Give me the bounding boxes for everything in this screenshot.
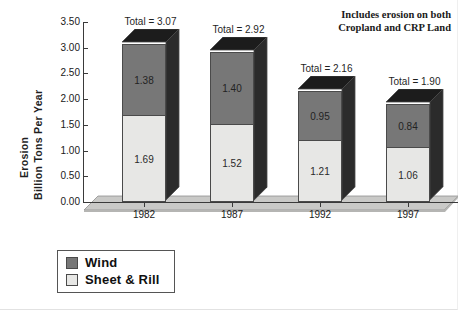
y-axis-tick-label: 1.00 <box>42 145 80 156</box>
y-axis-tick-label: 3.00 <box>42 42 80 53</box>
bar-group-1992[interactable]: 0.951.21 <box>298 78 355 202</box>
legend-item-sheet-and-rill[interactable]: Sheet & Rill <box>66 271 160 288</box>
x-axis-tick <box>232 202 233 207</box>
bar-segment-wind-1992[interactable]: 0.95 <box>298 91 342 140</box>
chart-annotation-line-1: Includes erosion on both <box>338 8 451 21</box>
bar-segment-wind-1982[interactable]: 1.38 <box>122 44 166 115</box>
plot-area: 1.381.69Total = 3.071.401.52Total = 2.92… <box>84 22 458 202</box>
x-axis-tick-label-1982: 1982 <box>109 209 179 220</box>
bar-value-label-sheet-rill-1997: 1.06 <box>387 169 429 180</box>
bar-segment-sheet-rill-1997[interactable]: 1.06 <box>386 147 430 202</box>
y-axis-tick-label: 3.50 <box>42 16 80 27</box>
x-axis-tick <box>144 202 145 207</box>
y-axis-tick-label: 1.50 <box>42 119 80 130</box>
x-axis-tick-label-1987: 1987 <box>197 209 267 220</box>
bar-segment-wind-1987[interactable]: 1.40 <box>210 52 254 124</box>
legend-label-wind: Wind <box>85 255 117 270</box>
legend-swatch-sheet-rill-icon <box>66 274 78 286</box>
y-axis-tick-label: 0.50 <box>42 170 80 181</box>
bar-value-label-sheet-rill-1992: 1.21 <box>299 165 341 176</box>
x-axis-tick-label-1997: 1997 <box>373 209 443 220</box>
x-axis-tick-label-1992: 1992 <box>285 209 355 220</box>
chart-annotation-line-2: Cropland and CRP Land <box>338 21 451 34</box>
bar-value-label-sheet-rill-1982: 1.69 <box>123 153 165 164</box>
bar-value-label-wind-1992: 0.95 <box>299 110 341 121</box>
bar-group-1987[interactable]: 1.401.52 <box>210 39 267 202</box>
erosion-stacked-bar-chart: Erosion Billion Tons Per Year 3.503.002.… <box>0 0 458 310</box>
bar-group-1997[interactable]: 0.841.06 <box>386 91 443 202</box>
chart-legend: Wind Sheet & Rill <box>57 250 175 293</box>
y-axis-title: Erosion Billion Tons Per Year <box>4 18 46 198</box>
y-axis-tick-label: 2.00 <box>42 93 80 104</box>
chart-annotation: Includes erosion on both Cropland and CR… <box>338 8 451 34</box>
bar-total-label-1997: Total = 1.90 <box>375 76 455 87</box>
y-axis-title-line-1: Erosion <box>18 137 30 178</box>
bar-total-label-1992: Total = 2.16 <box>287 63 367 74</box>
bar-value-label-wind-1997: 0.84 <box>387 121 429 132</box>
bar-value-label-sheet-rill-1987: 1.52 <box>211 157 253 168</box>
legend-label-sheet-and-rill: Sheet & Rill <box>85 272 160 287</box>
bar-segment-wind-1997[interactable]: 0.84 <box>386 104 430 147</box>
bar-stack-1982: 1.381.69 <box>122 44 166 202</box>
bar-segment-sheet-rill-1982[interactable]: 1.69 <box>122 115 166 202</box>
bar-stack-1997: 0.841.06 <box>386 104 430 202</box>
y-axis-tick-label: 0.00 <box>42 196 80 207</box>
bar-segment-sheet-rill-1992[interactable]: 1.21 <box>298 140 342 202</box>
bar-group-1982[interactable]: 1.381.69 <box>122 31 179 202</box>
bar-stack-1987: 1.401.52 <box>210 52 254 202</box>
x-axis-tick <box>320 202 321 207</box>
bar-value-label-wind-1982: 1.38 <box>123 75 165 86</box>
y-axis-tick-label: 2.50 <box>42 67 80 78</box>
x-axis-tick <box>408 202 409 207</box>
legend-swatch-wind-icon <box>66 257 78 269</box>
bar-stack-1992: 0.951.21 <box>298 91 342 202</box>
legend-item-wind[interactable]: Wind <box>66 254 160 271</box>
bar-segment-sheet-rill-1987[interactable]: 1.52 <box>210 124 254 202</box>
bar-total-label-1987: Total = 2.92 <box>199 24 279 35</box>
bar-value-label-wind-1987: 1.40 <box>211 83 253 94</box>
x-axis-line <box>83 202 458 203</box>
bar-total-label-1982: Total = 3.07 <box>111 16 191 27</box>
